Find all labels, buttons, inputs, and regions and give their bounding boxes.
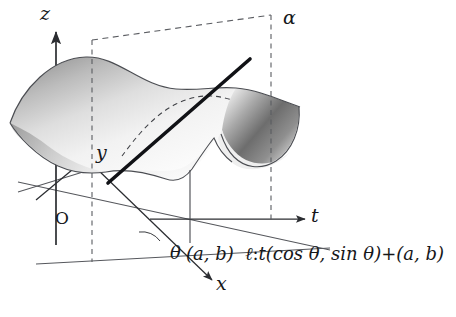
surface-sheet xyxy=(10,57,300,180)
angle-theta-label: θ xyxy=(170,244,181,262)
line-formula-body: t(cos θ, sin θ)+(a, b) xyxy=(259,243,444,264)
point-ab-label: (a, b) xyxy=(186,245,234,263)
point-ab-text: (a, b) xyxy=(186,243,234,264)
origin-label: O xyxy=(55,210,69,227)
plane-top-edge xyxy=(92,15,271,40)
t-axis-label: t xyxy=(311,206,319,225)
line-formula-name: ℓ xyxy=(245,243,253,264)
x-axis-label: x xyxy=(216,274,227,293)
surface-diagram-svg xyxy=(0,0,456,317)
plane-alpha-label: α xyxy=(283,8,296,27)
line-formula: ℓ:t(cos θ, sin θ)+(a, b) xyxy=(245,245,444,263)
y-axis-label: y xyxy=(96,143,107,162)
figure-root: z α y O t x θ (a, b) ℓ:t(cos θ, sin θ)+(… xyxy=(0,0,456,317)
z-axis-label: z xyxy=(40,4,50,23)
angle-arc xyxy=(139,232,160,241)
